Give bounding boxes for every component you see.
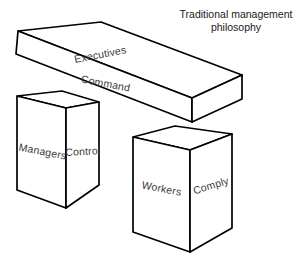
traditional-management-philosophy-diagram: Executives Command Managers Control Work… — [0, 0, 301, 279]
workers-box-front-face — [133, 137, 190, 252]
control-label: Control — [65, 144, 101, 158]
figure-title-line1: Traditional management — [180, 8, 293, 20]
diagram-canvas: Executives Command Managers Control Work… — [0, 0, 301, 279]
figure-title-line2: philosophy — [211, 21, 262, 33]
